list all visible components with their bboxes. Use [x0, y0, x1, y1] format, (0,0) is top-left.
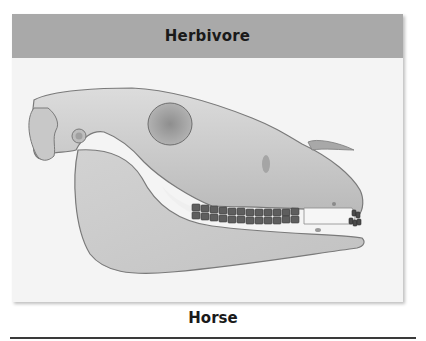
skull-icon — [12, 58, 403, 302]
herbivore-card: Herbivore — [12, 14, 403, 302]
divider-rule — [10, 337, 416, 339]
card-header: Herbivore — [12, 14, 403, 58]
horse-skull-illustration — [12, 58, 403, 302]
animal-name-caption: Horse — [0, 309, 426, 327]
card-title: Herbivore — [165, 27, 250, 45]
